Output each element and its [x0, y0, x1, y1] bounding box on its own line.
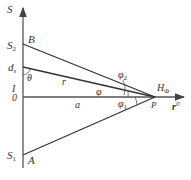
field-h-label: HΦ: [156, 82, 169, 95]
origin-label: 0: [12, 92, 17, 103]
line-BP: [23, 44, 155, 97]
line-dsP: [23, 67, 155, 97]
s2-label: S2: [7, 39, 17, 53]
diagram-canvas: S S2 B ds θ r I 0 a φ φ2 φ1 HΦ P r0 S1 A: [0, 0, 191, 180]
theta-label: θ: [27, 72, 32, 83]
point-p-label: P: [150, 100, 157, 110]
r-axis-label: r0: [172, 100, 180, 112]
line-AP: [23, 97, 155, 155]
phi2-label: φ2: [118, 69, 128, 82]
biot-savart-diagram: S S2 B ds θ r I 0 a φ φ2 φ1 HΦ P r0 S1 A: [0, 0, 191, 180]
s1-label: S1: [7, 149, 17, 163]
point-a-label: A: [27, 154, 35, 166]
ds-label: ds: [8, 61, 17, 75]
segment-a-label: a: [75, 99, 80, 110]
phi1-label: φ1: [118, 98, 128, 111]
phi-label: φ: [96, 86, 102, 97]
point-b-label: B: [28, 33, 35, 45]
segment-r-label: r: [62, 76, 66, 87]
arc-phi1: [135, 97, 137, 105]
s-axis-label: S: [7, 3, 13, 15]
